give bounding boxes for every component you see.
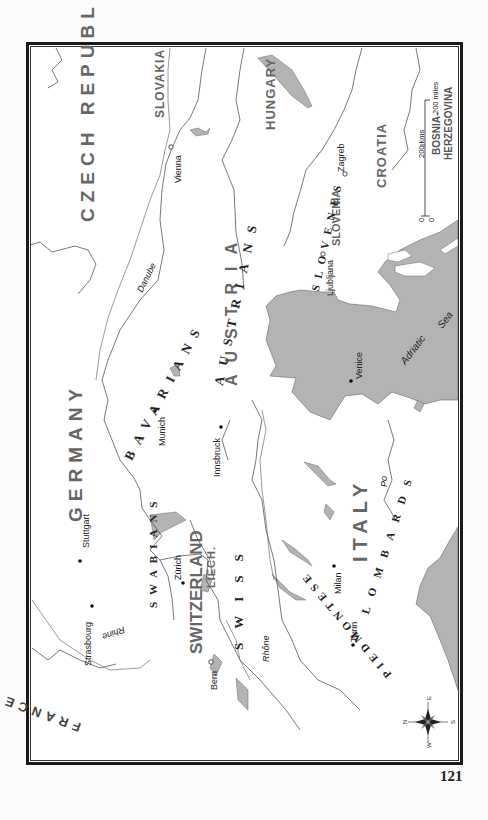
label-bern: Bern bbox=[210, 671, 219, 690]
label-scale-miles: 200 miles bbox=[432, 82, 440, 114]
label-po: Po bbox=[380, 476, 389, 487]
label-liech: LIECH. bbox=[206, 546, 217, 588]
label-scale-kms: 200 kms bbox=[418, 130, 426, 158]
adriatic-sea bbox=[266, 220, 458, 420]
label-croatia: CROATIA bbox=[375, 123, 388, 188]
compass-s: S bbox=[450, 720, 456, 724]
label-bosnia-line1: BOSNIA- bbox=[432, 113, 442, 155]
label-bosnia-line2: HERZEGOVINA bbox=[444, 87, 454, 160]
label-milan: Milan bbox=[334, 572, 343, 594]
compass-e: E bbox=[426, 696, 432, 700]
label-venice: Venice bbox=[355, 352, 364, 379]
compass-rose-icon bbox=[408, 702, 448, 742]
label-swabians: SWABIANS bbox=[148, 495, 159, 608]
label-strasbourg: Strasbourg bbox=[84, 622, 93, 666]
label-stuttgart: Stuttgart bbox=[82, 514, 91, 548]
label-hungary: HUNGARY bbox=[264, 58, 277, 130]
label-zurich: Zürich bbox=[174, 555, 183, 580]
label-scale-zero-b: 0 bbox=[428, 218, 436, 222]
label-rhone: Rhône bbox=[262, 635, 271, 662]
label-slovakia: SLOVAKIA bbox=[154, 49, 166, 118]
label-munich: Munich bbox=[158, 417, 167, 446]
label-germany: GERMANY bbox=[66, 383, 85, 522]
label-czech-republic: CZECH REPUBLIC bbox=[78, 0, 97, 222]
label-switzerland: SWITZERLAND bbox=[188, 530, 205, 654]
label-turin: Turin bbox=[350, 622, 359, 642]
page-number: 121 bbox=[440, 768, 463, 785]
label-vienna: Vienna bbox=[174, 155, 183, 183]
label-innsbruck: Innsbruck bbox=[213, 438, 222, 477]
compass-n: N bbox=[402, 720, 408, 724]
label-italy: ITALY bbox=[350, 478, 370, 562]
label-swiss: SWISS bbox=[232, 540, 245, 650]
label-scale-zero-a: 0 bbox=[418, 218, 426, 222]
label-ljubljana: Ljubljana bbox=[326, 260, 335, 296]
compass-w: W bbox=[426, 742, 432, 748]
label-zagreb: Zagreb bbox=[337, 143, 346, 172]
